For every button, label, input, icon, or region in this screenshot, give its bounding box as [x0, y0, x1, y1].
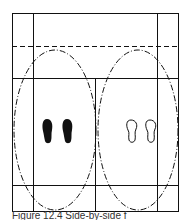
stance-diagram	[0, 0, 187, 220]
figure-caption: Figure 12.4 Side-by-side f	[12, 210, 127, 220]
outlined-footprints-icon	[127, 120, 156, 142]
filled-footprints-icon	[42, 119, 72, 143]
